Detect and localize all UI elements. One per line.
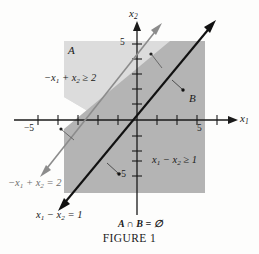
plot-canvas [0, 0, 259, 254]
figure-container: x2 x1 5 −5 −5 5 A B −x1 + x2 ≥ 2 x1 − x2… [0, 0, 259, 254]
